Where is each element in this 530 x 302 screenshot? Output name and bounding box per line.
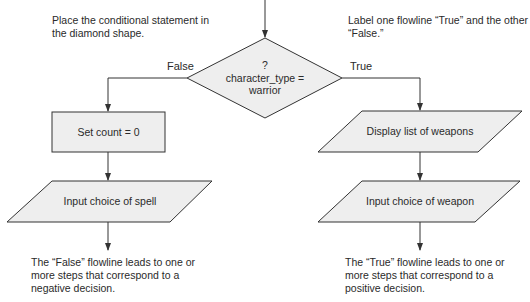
input-spell-text: Input choice of spell <box>30 195 190 208</box>
decision-value: warrior <box>205 84 325 97</box>
true-flowline <box>342 78 420 110</box>
false-label: False <box>167 60 194 72</box>
false-flowline <box>108 78 187 111</box>
annotation-bottom-left: The “False” flowline leads to one or mor… <box>31 256 201 295</box>
true-label: True <box>350 60 372 72</box>
decision-text: ? character_type = warrior <box>205 59 325 97</box>
annotation-top-left: Place the conditional statement in the d… <box>52 14 212 40</box>
annotation-bottom-right: The “True” flowline leads to one or more… <box>345 256 515 295</box>
process-text: Set count = 0 <box>52 126 165 139</box>
input-weapon-text: Input choice of weapon <box>340 195 500 208</box>
decision-question-mark: ? <box>205 59 325 72</box>
annotation-top-right: Label one flowline “True” and the other … <box>348 14 530 40</box>
decision-condition: character_type = <box>205 72 325 85</box>
display-weapons-text: Display list of weapons <box>340 125 500 138</box>
